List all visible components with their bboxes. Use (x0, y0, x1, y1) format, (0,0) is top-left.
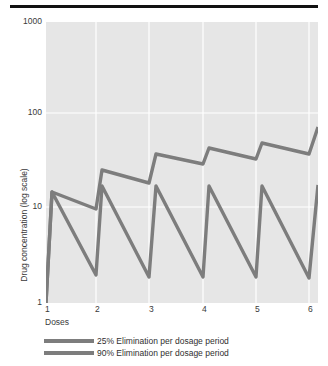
legend-swatch-icon (44, 351, 94, 355)
series-line-90-percent (46, 185, 318, 303)
chart-figure: 1000 100 10 1 Drug concentration (log sc… (0, 0, 328, 366)
top-divider-rule (10, 5, 318, 8)
y-axis-title: Drug concentration (log scale) (19, 145, 29, 305)
legend-item-label: 25% Elimination per dosage period (97, 336, 229, 346)
legend-item-label: 90% Elimination per dosage period (97, 348, 229, 358)
legend-swatch-icon (44, 339, 94, 343)
chart-legend: 25% Elimination per dosage period 90% El… (44, 335, 314, 359)
x-tick-label-4: 4 (202, 305, 207, 314)
x-tick-label-6: 6 (308, 305, 313, 314)
x-tick-label-1: 1 (45, 305, 50, 314)
x-tick-label-3: 3 (149, 305, 154, 314)
x-tick-label-2: 2 (95, 305, 100, 314)
plot-area (46, 22, 318, 303)
x-tick-label-5: 5 (255, 305, 260, 314)
legend-item: 90% Elimination per dosage period (44, 347, 314, 359)
y-tick-label-1000: 1000 (2, 17, 42, 26)
y-tick-label-100: 100 (2, 108, 42, 117)
plot-svg (46, 22, 318, 303)
legend-item: 25% Elimination per dosage period (44, 335, 314, 347)
x-axis-title: Doses (45, 317, 69, 327)
